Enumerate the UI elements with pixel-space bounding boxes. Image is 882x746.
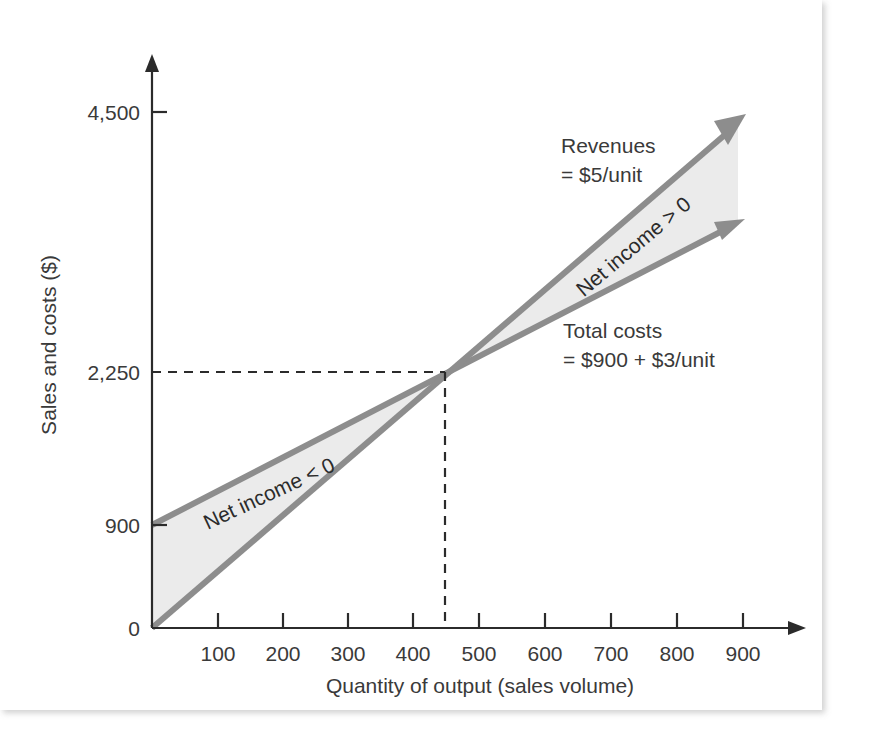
y-tick-label-4500: 4,500 [87,101,140,124]
break-even-chart: 4,500 2,250 900 0 100 200 300 400 500 60… [0,0,882,746]
revenues-label-line2: = $5/unit [561,163,642,186]
x-tick-label-700: 700 [593,642,628,665]
x-axis-arrowhead [788,621,806,635]
x-tick-label-300: 300 [330,642,365,665]
revenues-line [152,133,727,628]
y-tick-label-900: 900 [105,514,140,537]
revenues-label-line1: Revenues [561,134,656,157]
x-axis-title: Quantity of output (sales volume) [326,674,634,697]
y-axis-title: Sales and costs ($) [37,255,60,435]
total-costs-label-line1: Total costs [563,319,662,342]
x-tick-label-400: 400 [395,642,430,665]
total-costs-label-line2: = $900 + $3/unit [563,348,715,371]
y-tick-label-0: 0 [128,617,140,640]
x-tick-label-600: 600 [527,642,562,665]
x-tick-label-100: 100 [200,642,235,665]
x-tick-label-200: 200 [265,642,300,665]
y-tick-label-2250: 2,250 [87,361,140,384]
x-tick-label-900: 900 [725,642,760,665]
y-axis-arrowhead [145,54,159,72]
x-tick-label-800: 800 [659,642,694,665]
total-costs-arrowhead [714,219,745,240]
x-tick-label-500: 500 [461,642,496,665]
chart-page: 4,500 2,250 900 0 100 200 300 400 500 60… [0,0,882,746]
